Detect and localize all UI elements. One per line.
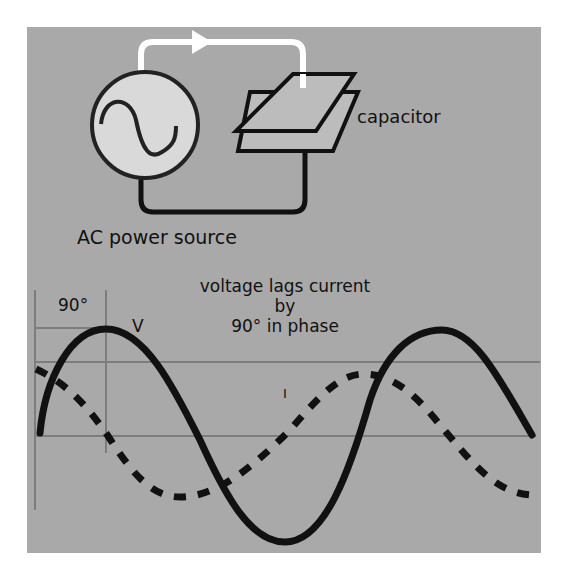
waveform-title: voltage lags current by 90° in phase [150, 276, 420, 336]
ac-source-icon [92, 72, 198, 178]
title-line-3: 90° in phase [150, 316, 420, 336]
current-label: I [283, 387, 287, 400]
capacitor-icon [236, 74, 358, 151]
phase-marker-label: 90° [58, 297, 88, 314]
current-arrow-icon [192, 30, 212, 54]
ac-source-label: AC power source [77, 228, 237, 247]
title-line-1: voltage lags current [150, 276, 420, 296]
voltage-label: V [132, 318, 144, 335]
title-line-2: by [150, 296, 420, 316]
capacitor-label: capacitor [357, 108, 441, 126]
